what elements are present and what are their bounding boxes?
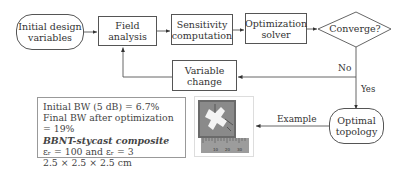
variable-change-node: Variable change <box>172 60 237 91</box>
converge-decision-label: Converge? <box>322 23 388 34</box>
material-text: BBNT-stycast composite <box>43 135 180 146</box>
yes-edge-label: Yes <box>361 84 375 94</box>
example-results-box: Initial BW (5 dB) = 6.7% Final BW after … <box>37 97 186 158</box>
permittivity-text: εᵣ = 100 and εᵣ = 3 <box>43 146 180 157</box>
sensitivity-computation-node: Sensitivity computation <box>171 14 233 45</box>
field-analysis-node: Field analysis <box>98 16 157 46</box>
final-bw-text: Final BW after optimization = 19% <box>43 112 180 134</box>
svg-text:20: 20 <box>225 147 231 152</box>
dimensions-text: 2.5 × 2.5 × 2.5 cm <box>43 157 180 168</box>
solver-label-1: Optimization <box>245 18 307 29</box>
field-label-2: analysis <box>108 31 147 42</box>
optimal-label-1: Optimal <box>336 115 378 126</box>
initial-design-variables-node: Initial design variables <box>16 14 84 50</box>
optimal-label-2: topology <box>336 126 378 137</box>
solver-label-2: solver <box>245 29 307 40</box>
topology-photo: 10 20 30 <box>194 96 254 157</box>
example-edge-label: Example <box>277 114 317 124</box>
sensitivity-label-2: computation <box>172 30 232 41</box>
variable-change-label-1: Variable <box>185 65 225 76</box>
svg-text:10: 10 <box>213 147 219 152</box>
fabricated-sample-image: 10 20 30 <box>195 97 253 156</box>
no-edge-label: No <box>338 63 351 73</box>
optimization-solver-node: Optimization solver <box>245 13 307 44</box>
initial-bw-text: Initial BW (5 dB) = 6.7% <box>43 101 180 112</box>
initial-label-2: variables <box>18 32 81 43</box>
variable-change-label-2: change <box>185 76 225 87</box>
initial-label-1: Initial design <box>18 21 81 32</box>
svg-text:30: 30 <box>237 147 243 152</box>
sensitivity-label-1: Sensitivity <box>172 19 232 30</box>
optimal-topology-node: Optimal topology <box>329 108 384 144</box>
field-label-1: Field <box>108 20 147 31</box>
